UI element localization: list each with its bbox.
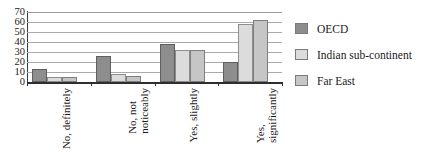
x-tick-mark xyxy=(27,82,28,86)
y-tick-label-50: 50 xyxy=(3,27,25,38)
x-category-label: No, notnoticeably xyxy=(126,88,150,134)
bar-group xyxy=(32,12,77,82)
bar xyxy=(253,20,268,82)
y-tick-label-30: 30 xyxy=(3,47,25,58)
x-category-label-line: No, not xyxy=(126,88,138,134)
x-category-label-line: Yes, xyxy=(254,88,266,143)
bar-series-area xyxy=(27,12,283,82)
bar xyxy=(111,74,126,82)
bar-chart-figure: 010203040506070 No, definitelyNo, notnot… xyxy=(0,0,423,164)
y-tick-label-20: 20 xyxy=(3,57,25,68)
y-tick-label-0: 0 xyxy=(3,77,25,88)
legend-swatch-icon xyxy=(295,75,308,86)
x-category-label-line: No, definitely xyxy=(60,88,72,149)
bar xyxy=(32,69,47,82)
bar-group xyxy=(96,12,141,82)
bar xyxy=(223,62,238,82)
bar xyxy=(160,44,175,82)
legend-label: OECD xyxy=(317,23,348,35)
y-tick-label-60: 60 xyxy=(3,17,25,28)
legend-label: Indian sub-continent xyxy=(317,49,412,61)
x-tick-mark xyxy=(91,82,92,86)
bar xyxy=(190,50,205,82)
y-tick-label-10: 10 xyxy=(3,67,25,78)
bar xyxy=(238,24,253,82)
x-category-label: Yes, slightly xyxy=(187,88,199,143)
bar-group xyxy=(223,12,268,82)
chart-legend: OECDIndian sub-continentFar East xyxy=(295,18,423,96)
x-tick-mark xyxy=(155,82,156,86)
x-category-label-line: Yes, slightly xyxy=(187,88,199,143)
x-category-label-line: noticeably xyxy=(138,88,150,134)
y-tick-label-40: 40 xyxy=(3,37,25,48)
legend-item-1[interactable]: OECD xyxy=(295,18,423,39)
x-category-label-line: significantly xyxy=(266,88,278,143)
x-category-label: Yes,significantly xyxy=(254,88,278,143)
x-tick-mark xyxy=(218,82,219,86)
x-category-label: No, definitely xyxy=(60,88,72,149)
legend-item-3[interactable]: Far East xyxy=(295,70,423,91)
clipped-header-text xyxy=(6,0,306,5)
bar-group xyxy=(160,12,205,82)
legend-swatch-icon xyxy=(295,23,308,34)
legend-item-2[interactable]: Indian sub-continent xyxy=(295,44,423,65)
legend-label: Far East xyxy=(317,75,355,87)
y-tick-label-70: 70 xyxy=(3,7,25,18)
legend-swatch-icon xyxy=(295,49,308,60)
x-tick-mark xyxy=(282,82,283,86)
bar xyxy=(96,56,111,82)
bar xyxy=(175,50,190,82)
x-axis-category-labels: No, definitelyNo, notnoticeablyYes, slig… xyxy=(0,88,300,164)
